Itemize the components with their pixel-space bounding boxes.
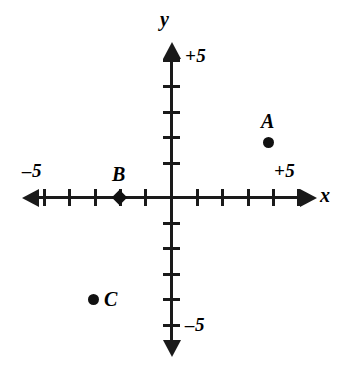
y-axis-line bbox=[170, 54, 173, 350]
x-axis-tick--4 bbox=[68, 189, 71, 206]
y-axis-tick-5 bbox=[163, 59, 180, 62]
y-axis-tick--2 bbox=[163, 247, 180, 250]
x-axis-tick-3 bbox=[247, 189, 250, 206]
point-a-marker bbox=[263, 137, 274, 148]
y-axis-tick--3 bbox=[163, 273, 180, 276]
x-axis-tick--1 bbox=[144, 189, 147, 206]
x-axis-tick--3 bbox=[94, 189, 97, 206]
y-axis-tick-4 bbox=[163, 85, 180, 88]
point-b-marker bbox=[112, 190, 128, 206]
x-axis-tick-4 bbox=[272, 189, 275, 206]
x-axis-positive-scale-label: +5 bbox=[274, 160, 295, 182]
y-axis-down-arrowhead bbox=[163, 340, 181, 357]
y-axis-tick--4 bbox=[163, 298, 180, 301]
x-axis-right-arrowhead bbox=[300, 189, 317, 207]
x-axis-name-label: x bbox=[320, 184, 330, 207]
y-axis-tick-2 bbox=[163, 136, 180, 139]
x-axis-tick--5 bbox=[43, 189, 46, 206]
y-axis-tick--5 bbox=[163, 324, 180, 327]
y-axis-negative-scale-label: –5 bbox=[185, 314, 205, 336]
y-axis-up-arrowhead bbox=[163, 42, 181, 59]
y-axis-tick--1 bbox=[163, 222, 180, 225]
x-axis-tick-2 bbox=[221, 189, 224, 206]
x-axis-tick-1 bbox=[196, 189, 199, 206]
point-c-label: C bbox=[104, 288, 117, 311]
point-a-label: A bbox=[261, 110, 274, 133]
y-axis-positive-scale-label: +5 bbox=[185, 45, 206, 67]
x-axis-negative-scale-label: –5 bbox=[22, 160, 42, 182]
x-axis-tick-5 bbox=[297, 189, 300, 206]
point-c-marker bbox=[88, 294, 99, 305]
y-axis-name-label: y bbox=[160, 8, 169, 31]
x-axis-left-arrowhead bbox=[22, 189, 39, 207]
point-b-label: B bbox=[112, 163, 125, 186]
y-axis-tick-3 bbox=[163, 111, 180, 114]
coordinate-plane-figure: +5 –5 +5 –5 y x A B C bbox=[0, 0, 357, 378]
y-axis-tick-1 bbox=[163, 162, 180, 165]
